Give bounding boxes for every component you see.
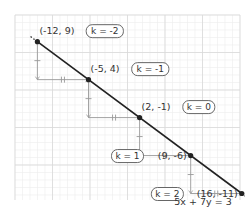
- equation-label: 5x + 7y = 3: [174, 196, 231, 207]
- lattice-diagram: (-12, 9)k = -2(-5, 4)k = -1(2, -1)k = 0(…: [0, 0, 245, 215]
- lattice-point: [188, 153, 193, 158]
- lattice-point: [137, 115, 142, 120]
- lattice-point: [239, 191, 244, 196]
- k-label: k = 1: [115, 151, 139, 161]
- lattice-point: [35, 39, 40, 44]
- coord-label: (-12, 9): [39, 25, 74, 36]
- k-label: k = -2: [91, 26, 118, 36]
- coord-label: (9, -6): [158, 150, 187, 161]
- k-label: k = 0: [187, 102, 211, 112]
- k-label: k = -1: [137, 64, 164, 74]
- lattice-point: [86, 77, 91, 82]
- coord-label: (-5, 4): [91, 63, 120, 74]
- coord-label: (2, -1): [142, 101, 171, 112]
